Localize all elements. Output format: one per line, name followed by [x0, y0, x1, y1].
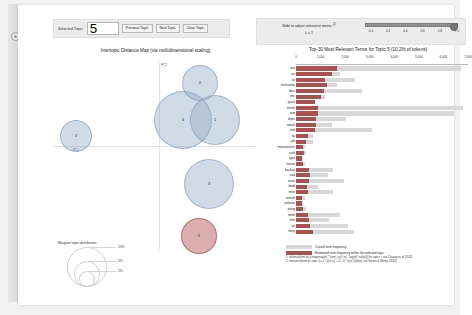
footnote-marker: (2) [333, 23, 336, 26]
bar-row[interactable]: brush [268, 105, 468, 110]
bar-row[interactable]: car [268, 72, 468, 77]
bar-estimated-frequency [296, 100, 315, 104]
relevance-metric-bar: Slide to adjust relevance metric:(2) λ =… [256, 18, 466, 45]
topic-bubble-number: 1 [214, 118, 216, 122]
pc2-axis-label: PC2 [161, 63, 167, 67]
term-label[interactable]: art [235, 224, 295, 228]
bar-row[interactable]: instruction [268, 83, 468, 88]
bar-row[interactable]: torso [268, 179, 468, 184]
bar-row[interactable]: art [268, 224, 468, 229]
intertopic-distance-map[interactable]: PC2 PC1 324135 [51, 57, 256, 252]
top-terms-bar-chart: 01,0002,0003,0004,0005,0006,0007,000 use… [268, 55, 468, 240]
bar-row[interactable]: lot [268, 77, 468, 82]
term-label[interactable]: brush [235, 106, 295, 110]
term-label[interactable]: miss [235, 190, 295, 194]
bar-row[interactable]: house [268, 162, 468, 167]
bar-estimated-frequency [296, 196, 302, 200]
bar-estimated-frequency [296, 185, 307, 189]
previous-topic-button[interactable]: Previous Topic [122, 24, 153, 33]
topic-bubble-number: 3 [208, 182, 210, 186]
clear-topic-button[interactable]: Clear Topic [183, 24, 208, 33]
bar-row[interactable]: dryer [268, 117, 468, 122]
bar-row[interactable]: job [268, 139, 468, 144]
topic-bubble-3[interactable]: 3 [184, 159, 234, 209]
bar-row[interactable]: watch [268, 122, 468, 127]
topic-bubble-5[interactable]: 5 [181, 218, 217, 254]
term-label[interactable]: thing [235, 229, 295, 233]
term-label[interactable]: sad [235, 173, 295, 177]
bar-row[interactable]: manufacture [268, 145, 468, 150]
selected-topic-label: Selected Topic: [58, 27, 84, 31]
term-label[interactable]: modi [235, 184, 295, 188]
footnote-1: 1. saliency(term w) = frequency(w) * [su… [286, 256, 468, 259]
bar-row[interactable]: miss [268, 190, 468, 195]
term-label[interactable]: watch [235, 123, 295, 127]
lambda-slider[interactable]: 0.00.20.40.60.81.0 [365, 23, 458, 37]
term-label[interactable]: craft [235, 151, 295, 155]
marginal-size-label: 10% [118, 245, 124, 249]
term-label[interactable]: lot [235, 78, 295, 82]
x-tick-label: 2,000 [341, 55, 349, 59]
term-label[interactable]: mom [235, 213, 295, 217]
bar-estimated-frequency [296, 156, 302, 160]
bar-estimated-frequency [296, 213, 308, 217]
term-label[interactable]: backup [235, 168, 295, 172]
legend-estimated: Estimated term frequency within the sele… [286, 251, 468, 255]
bar-row[interactable]: use [268, 66, 468, 71]
term-label[interactable]: car [235, 72, 295, 76]
bar-estimated-frequency [296, 162, 303, 166]
legend-swatch-overall [286, 245, 312, 249]
term-label[interactable]: use [235, 66, 295, 70]
bar-row[interactable]: overall [268, 195, 468, 200]
slider-tick: 0.6 [420, 29, 424, 33]
term-label[interactable]: job [235, 139, 295, 143]
bar-estimated-frequency [296, 89, 324, 93]
bar-row[interactable]: craft [268, 150, 468, 155]
term-label[interactable]: string [235, 207, 295, 211]
term-label[interactable]: manufacture [235, 145, 295, 149]
term-label[interactable]: dryer [235, 117, 295, 121]
term-label[interactable]: unknow [235, 201, 295, 205]
topic-bubble-1[interactable]: 1 [190, 95, 240, 145]
bar-row[interactable]: unknow [268, 201, 468, 206]
bar-row[interactable]: quick [268, 100, 468, 105]
bar-row[interactable]: string [268, 207, 468, 212]
term-label[interactable]: arm [235, 111, 295, 115]
term-label[interactable]: torso [235, 179, 295, 183]
selected-topic-input[interactable] [87, 22, 119, 35]
bar-row[interactable]: modi [268, 184, 468, 189]
term-label[interactable]: quick [235, 100, 295, 104]
bar-row[interactable]: tip [268, 134, 468, 139]
term-label[interactable]: house [235, 162, 295, 166]
topic-bubble-3[interactable]: 3 [60, 120, 92, 152]
bar-row[interactable]: imc [268, 94, 468, 99]
marginal-size-label: 2% [118, 269, 123, 273]
slider-track[interactable] [365, 23, 458, 27]
bar-row[interactable]: mom [268, 212, 468, 217]
term-label[interactable]: type [235, 156, 295, 160]
slider-tick: 0.4 [403, 29, 407, 33]
bar-row[interactable]: type [268, 156, 468, 161]
term-label[interactable]: overall [235, 196, 295, 200]
bar-row[interactable]: sad [268, 173, 468, 178]
term-label[interactable]: shot [235, 218, 295, 222]
bar-row[interactable]: arm [268, 111, 468, 116]
marginal-topic-legend: Marginal topic distribution 2%5%10% [58, 241, 163, 303]
term-label[interactable]: imc [235, 94, 295, 98]
bar-row[interactable]: end [268, 128, 468, 133]
bar-row[interactable]: backup [268, 167, 468, 172]
term-label[interactable]: instruction [235, 83, 295, 87]
bar-row[interactable]: thing [268, 229, 468, 234]
term-label[interactable]: tip [235, 134, 295, 138]
bar-rows: usecarlotinstructionductimcquickbrusharm… [268, 66, 468, 235]
bar-row[interactable]: shot [268, 218, 468, 223]
term-label[interactable]: duct [235, 89, 295, 93]
intertopic-map-title: Intertopic Distance Map (via multidimens… [53, 48, 258, 53]
term-label[interactable]: end [235, 128, 295, 132]
bar-estimated-frequency [296, 201, 302, 205]
next-topic-button[interactable]: Next Topic [156, 24, 180, 33]
bar-row[interactable]: duct [268, 89, 468, 94]
x-axis-ticks: 01,0002,0003,0004,0005,0006,0007,000 [296, 55, 468, 63]
bar-estimated-frequency [296, 83, 327, 87]
slider-tick: 0.8 [438, 29, 442, 33]
